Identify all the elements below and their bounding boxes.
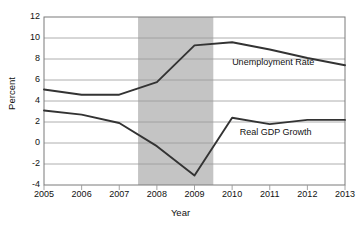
series-label-unemployment-rate: Unemployment Rate bbox=[232, 57, 314, 67]
unemployment-gdp-line-chart: Percent 121086420-2-4 200520062007200820… bbox=[0, 0, 361, 229]
series-annotations: Unemployment RateReal GDP Growth bbox=[0, 0, 361, 229]
series-label-real-gdp-growth: Real GDP Growth bbox=[240, 127, 312, 137]
